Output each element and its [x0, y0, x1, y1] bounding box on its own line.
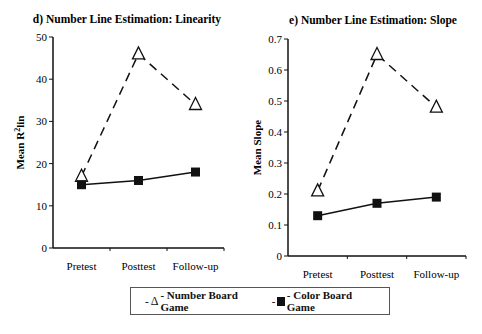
y-tick-label: 0.4 [268, 126, 282, 138]
y-tick-label: 30 [36, 115, 48, 127]
legend-prefix: - [145, 295, 149, 307]
filled-square-marker [77, 180, 86, 189]
filled-square-marker [191, 168, 200, 177]
y-axis-label: Mean Slope [251, 120, 263, 175]
chart-title: d) Number Line Estimation: Linearity [33, 13, 222, 26]
open-triangle-marker [371, 48, 383, 60]
open-triangle-icon: Δ [151, 294, 159, 309]
chart-canvas: d) Number Line Estimation: Linearity0102… [0, 0, 482, 334]
y-tick-label: 50 [36, 31, 48, 43]
open-triangle-marker [430, 100, 442, 112]
legend-item-number-board: - Δ - Number Board Game [145, 289, 250, 313]
open-triangle-marker [312, 184, 324, 196]
x-category-label: Posttest [121, 260, 155, 272]
y-axis-label: Mean R2lin [13, 116, 26, 170]
x-category-label: Pretest [303, 268, 333, 280]
y-tick-label: 0.2 [268, 188, 282, 200]
y-tick-label: 0.1 [268, 219, 282, 231]
y-tick-label: 0.3 [268, 157, 282, 169]
filled-square-marker [432, 193, 441, 202]
chart-title: e) Number Line Estimation: Slope [289, 14, 457, 27]
y-tick-label: 0.7 [268, 33, 282, 45]
filled-square-marker [313, 211, 322, 220]
x-category-label: Follow-up [173, 260, 219, 272]
legend-label: - Number Board Game [160, 289, 249, 313]
legend-label: - Color Board Game [287, 289, 367, 313]
y-tick-label: 0 [277, 250, 283, 262]
x-category-label: Pretest [67, 260, 97, 272]
legend-item-color-board: - - Color Board Game [272, 289, 367, 313]
y-tick-label: 0 [42, 242, 48, 254]
open-triangle-marker [190, 98, 202, 110]
x-category-label: Follow-up [413, 268, 459, 280]
filled-square-marker [134, 176, 143, 185]
filled-square-marker [373, 199, 382, 208]
y-tick-label: 10 [36, 200, 48, 212]
open-triangle-marker [76, 169, 88, 181]
y-tick-label: 0.6 [268, 64, 282, 76]
y-tick-label: 40 [36, 73, 48, 85]
legend-prefix: - [272, 295, 276, 307]
x-category-label: Posttest [360, 268, 394, 280]
number-board-line [318, 55, 437, 191]
legend: - Δ - Number Board Game - - Color Board … [130, 287, 390, 315]
y-tick-label: 20 [36, 158, 48, 170]
y-tick-label: 0.5 [268, 95, 282, 107]
number-board-line [82, 54, 196, 176]
filled-square-icon [277, 297, 285, 306]
open-triangle-marker [133, 47, 145, 59]
